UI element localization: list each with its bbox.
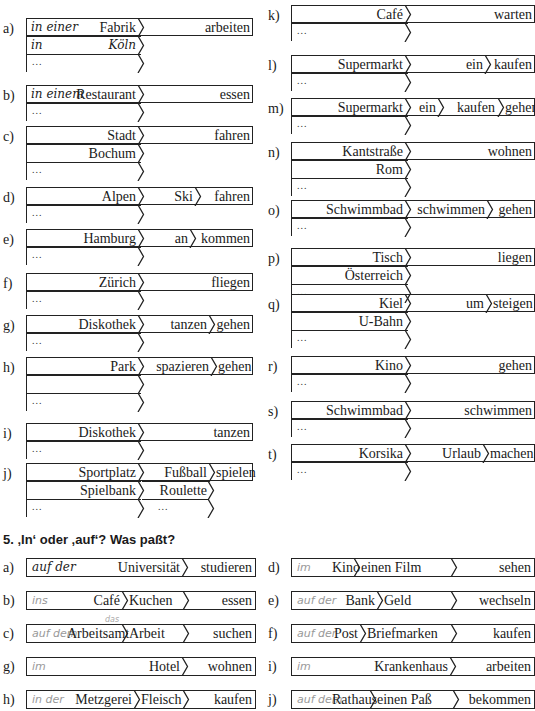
fill-in-item-b: b)insCaféKuchenessen (3, 591, 256, 611)
blank-row: ... (291, 218, 408, 236)
sentence-frame: in einemRestaurantessen... (26, 85, 253, 121)
verb-word: gehen (494, 201, 532, 217)
fill-in-item-d: d)imKinoeinen Filmsehen (268, 558, 535, 578)
item-label: f) (268, 626, 277, 642)
row-extension (142, 481, 209, 482)
exercise-i: i)Diskothektanzen... (3, 423, 253, 461)
exercise-label: n) (268, 145, 290, 161)
exercise-a: a)in einerFabrikarbeiteninKöln... (3, 18, 253, 75)
exercise-label: k) (268, 8, 290, 24)
answer-box[interactable]: auf derUniversitätstudieren (26, 558, 256, 577)
exercise-label: f) (3, 276, 25, 292)
verb-word: kaufen (492, 56, 532, 72)
sentence-frame: AlpenSkifahren... (26, 187, 253, 223)
chevron-separator-icon (450, 624, 458, 643)
chevron-separator-icon (137, 162, 145, 181)
chevron-separator-icon (404, 462, 412, 481)
main-row: Kinogehen (291, 356, 535, 374)
blank-row: ... (26, 54, 141, 72)
blank-row: ... (291, 330, 408, 348)
alternative-row: SpielbankRoulette (26, 481, 141, 499)
sentence-frame: StadtfahrenBochum... (26, 126, 253, 180)
chevron-separator-icon (137, 291, 145, 310)
exercise-h: h)Parkspazierengehen... (3, 357, 253, 414)
place-word: Rathaus (332, 691, 368, 707)
handwritten-answer: im (32, 658, 46, 675)
place-word: Café (292, 6, 403, 22)
blank-row: ... (291, 374, 408, 392)
object-word: ein (411, 56, 483, 72)
answer-box[interactable]: imHotelwohnen (26, 657, 256, 676)
handwritten-answer: im (297, 559, 311, 576)
exercise-g: g)Diskothektanzengehen... (3, 315, 253, 353)
chevron-separator-icon (137, 85, 145, 104)
blank-row: ... (26, 441, 141, 459)
chevron-separator-icon (194, 187, 202, 206)
exercise-label: b) (3, 88, 25, 104)
place-word: Diskothek (27, 316, 136, 332)
handwritten-answer: im (297, 658, 311, 675)
chevron-separator-icon (137, 144, 145, 163)
placeholder-dots: ... (32, 293, 43, 304)
main-row: Parkspazierengehen (26, 357, 253, 375)
answer-box[interactable]: in derMetzgereiFleischkaufen (26, 690, 256, 709)
exercise-label: h) (3, 360, 25, 376)
object-word: Briefmarken (367, 625, 447, 641)
place-word: Korsika (292, 445, 403, 461)
object-word: Fleisch (141, 691, 179, 707)
verb-word: essen (146, 86, 250, 102)
handwritten-answer: in der (32, 691, 64, 708)
placeholder-dots: ... (32, 501, 43, 512)
chevron-separator-icon (137, 54, 145, 73)
place-word: Schwimmbad (292, 201, 403, 217)
verb-word: fliegen (146, 274, 250, 290)
chevron-separator-icon (449, 657, 457, 676)
placeholder-dots: ... (32, 56, 43, 67)
chevron-separator-icon (404, 218, 412, 237)
chevron-separator-icon (137, 393, 145, 412)
answer-box[interactable]: auf demdasArbeitsamtArbeitsuchen (26, 624, 256, 643)
chevron-separator-icon (404, 401, 412, 420)
object-word: Kuchen (129, 592, 179, 608)
chevron-separator-icon (182, 690, 190, 709)
exercise-label: g) (3, 318, 25, 334)
alternative-row: Bochum (26, 144, 141, 162)
item-label: g) (3, 659, 15, 675)
place-word: Fabrik (27, 19, 136, 35)
answer-box[interactable]: auf derPostBriefmarkenkaufen (291, 624, 535, 643)
verb-word: kaufen (190, 691, 252, 707)
chevron-separator-icon (497, 98, 505, 117)
handwritten-answer: ins (32, 592, 48, 609)
answer-box[interactable]: auf demRathauseinen Paßbekommen (291, 690, 535, 709)
object-word: Geld (384, 592, 447, 608)
sentence-frame: in einerFabrikarbeiteninKöln... (26, 18, 253, 72)
verb-word: gehen (413, 357, 532, 373)
exercise-t: t)KorsikaUrlaubmachen... (268, 444, 535, 482)
blank-row: ... (291, 462, 408, 480)
answer-box[interactable]: insCaféKuchenessen (26, 591, 256, 610)
chevron-separator-icon (137, 499, 145, 518)
fill-in-item-g: g)imHotelwohnen (3, 657, 256, 677)
sentence-frame: Hamburgankommen... (26, 229, 253, 265)
pencil-note: das (105, 615, 119, 624)
placeholder-dots: ... (32, 395, 43, 406)
answer-box[interactable]: auf derBankGeldwechseln (291, 591, 535, 610)
place-word: Alpen (27, 188, 136, 204)
exercise-f: f)Zürichfliegen... (3, 273, 253, 311)
answer-box[interactable]: imKinoeinen Filmsehen (291, 558, 535, 577)
chevron-separator-icon (404, 266, 412, 285)
place-word: Sportplatz (27, 464, 136, 480)
item-label: c) (3, 626, 14, 642)
section-5-title: 5. ‚In‘ oder ‚auf‘? Was paßt? (3, 532, 175, 547)
chevron-separator-icon (137, 423, 145, 442)
verb-word: essen (190, 592, 252, 608)
placeholder-dots: ... (32, 164, 43, 175)
fill-in-item-i: i)imKrankenhausarbeiten (268, 657, 535, 677)
chevron-separator-icon (137, 375, 145, 394)
answer-box[interactable]: imKrankenhausarbeiten (291, 657, 535, 676)
chevron-separator-icon (137, 126, 145, 145)
blank-row: ... (26, 162, 141, 180)
object-word: einen Film (361, 559, 447, 575)
verb-word: wohnen (190, 658, 252, 674)
fill-in-item-e: e)auf derBankGeldwechseln (268, 591, 535, 611)
